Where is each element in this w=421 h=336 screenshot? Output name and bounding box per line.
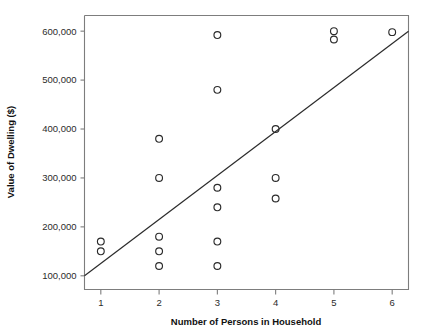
x-tick-label: 6 <box>390 297 395 308</box>
x-tick-label: 4 <box>273 297 278 308</box>
y-tick-label: 400,000 <box>42 123 76 134</box>
plot-canvas: 100,000200,000300,000400,000500,000600,0… <box>0 0 421 336</box>
y-tick-label: 300,000 <box>42 172 76 183</box>
figure-background <box>0 0 421 336</box>
scatter-plot-figure: 100,000200,000300,000400,000500,000600,0… <box>0 0 421 336</box>
x-axis-title: Number of Persons in Household <box>171 316 322 327</box>
y-tick-label: 500,000 <box>42 74 76 85</box>
y-axis-title: Value of Dwelling ($) <box>5 106 16 198</box>
x-tick-label: 1 <box>98 297 103 308</box>
y-tick-label: 600,000 <box>42 26 76 37</box>
x-tick-label: 5 <box>331 297 336 308</box>
x-tick-label: 2 <box>156 297 161 308</box>
x-tick-label: 3 <box>215 297 220 308</box>
y-tick-label: 100,000 <box>42 270 76 281</box>
y-tick-label: 200,000 <box>42 221 76 232</box>
